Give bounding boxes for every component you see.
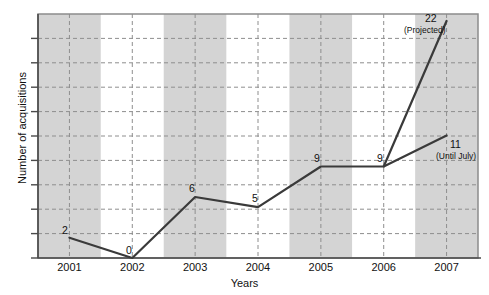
x-tick-label-2005: 2005 bbox=[299, 261, 343, 273]
chart-plot-area bbox=[0, 0, 489, 295]
data-label-2002: 0 bbox=[126, 244, 132, 256]
x-tick-label-2004: 2004 bbox=[236, 261, 280, 273]
data-label-2007-projected-note: (Projected) bbox=[404, 25, 446, 35]
data-label-2001: 2 bbox=[62, 224, 68, 236]
data-label-2004: 5 bbox=[252, 192, 258, 204]
data-label-2005: 9 bbox=[314, 152, 320, 164]
data-label-2007-projected: 22 bbox=[425, 12, 437, 24]
y-axis bbox=[31, 14, 38, 258]
data-label-2003: 6 bbox=[189, 182, 195, 194]
acquisitions-line-chart: Number of acquisitions Years 2001 2002 2… bbox=[0, 0, 489, 295]
x-tick-labels: 2001 2002 2003 2004 2005 2006 2007 bbox=[0, 261, 489, 277]
x-tick-label-2007: 2007 bbox=[425, 261, 469, 273]
data-label-2006: 9 bbox=[377, 152, 383, 164]
y-axis-title: Number of acquisitions bbox=[16, 43, 28, 213]
x-tick-label-2002: 2002 bbox=[110, 261, 154, 273]
x-tick-label-2006: 2006 bbox=[362, 261, 406, 273]
x-axis-title: Years bbox=[0, 277, 489, 289]
data-label-2007-until-july: 11 bbox=[450, 138, 461, 150]
x-tick-label-2003: 2003 bbox=[173, 261, 217, 273]
x-tick-label-2001: 2001 bbox=[47, 261, 91, 273]
data-label-2007-until-july-note: (Until July) bbox=[436, 151, 476, 161]
